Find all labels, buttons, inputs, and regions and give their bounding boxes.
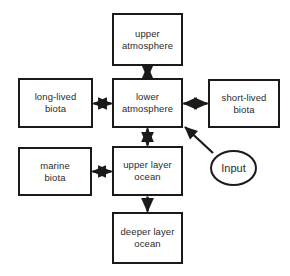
connector-input-lower-atmosphere [185, 127, 213, 153]
node-lower-atmosphere[interactable]: lower atmosphere [112, 78, 183, 128]
node-deeper-layer-ocean[interactable]: deeper layer ocean [112, 212, 183, 264]
node-upper-atmosphere-label: upper atmosphere [120, 28, 175, 52]
node-upper-layer-ocean-label: upper layer ocean [121, 159, 174, 183]
diagram-canvas: upper atmosphere lower atmosphere long-l… [0, 0, 290, 276]
node-short-lived-biota-label: short-lived biota [220, 92, 269, 116]
node-marine-biota[interactable]: marine biota [18, 147, 92, 196]
node-deeper-layer-ocean-label: deeper layer ocean [118, 226, 176, 250]
node-upper-atmosphere[interactable]: upper atmosphere [112, 13, 183, 66]
node-short-lived-biota[interactable]: short-lived biota [208, 79, 280, 128]
node-input[interactable]: Input [210, 150, 257, 186]
node-lower-atmosphere-label: lower atmosphere [120, 91, 175, 115]
node-input-label: Input [219, 162, 247, 175]
node-upper-layer-ocean[interactable]: upper layer ocean [112, 146, 183, 196]
node-long-lived-biota[interactable]: long-lived biota [18, 78, 93, 128]
node-marine-biota-label: marine biota [38, 160, 72, 184]
node-long-lived-biota-label: long-lived biota [33, 91, 79, 115]
